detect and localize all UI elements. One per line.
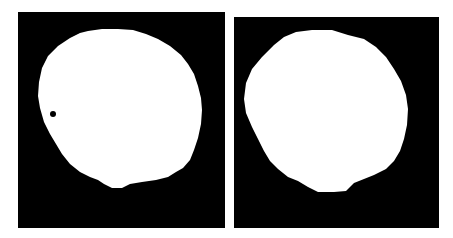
right-mask-shape	[234, 17, 439, 228]
right-mask-panel	[234, 17, 439, 228]
mask-hole	[50, 111, 56, 117]
left-mask-panel	[18, 12, 225, 228]
left-mask-shape	[18, 12, 225, 228]
